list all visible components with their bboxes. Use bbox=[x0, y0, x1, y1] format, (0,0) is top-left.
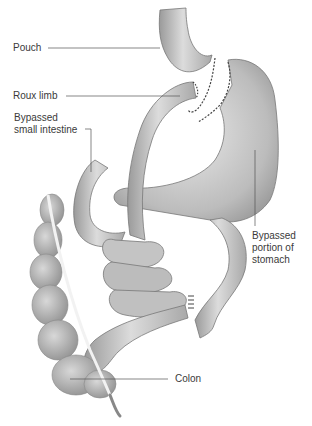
label-colon: Colon bbox=[175, 373, 201, 385]
label-bypassed-small-intestine: Bypassed small intestine bbox=[14, 112, 77, 136]
gastric-bypass-illustration bbox=[0, 0, 312, 426]
colon-organ bbox=[30, 194, 120, 416]
pouch-organ bbox=[159, 8, 212, 72]
label-roux-limb: Roux limb bbox=[13, 90, 57, 102]
label-pouch: Pouch bbox=[13, 42, 41, 54]
label-bypassed-stomach: Bypassed portion of stomach bbox=[252, 230, 296, 266]
